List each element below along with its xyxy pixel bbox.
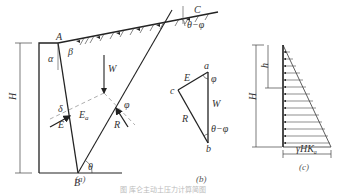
coulomb-earth-pressure-diagram: H α β A B C θ (0, 0, 338, 195)
delta-label: δ (58, 103, 63, 114)
pressure-distribution (283, 45, 331, 147)
height-label: H (7, 92, 18, 101)
vertex-b-label: b (206, 143, 211, 154)
figure-caption: 图 库仑主动土压力计算简图 (120, 185, 206, 194)
alpha-label: α (48, 53, 54, 64)
panel-a-caption: (a) (75, 174, 86, 184)
vertex-c-label: c (170, 85, 175, 96)
phi-label-a: φ (124, 99, 130, 110)
W-label-b: W (212, 98, 222, 109)
theta-label: θ (88, 161, 93, 172)
panel-b: a b c E W R φ θ−φ (b) (170, 60, 229, 184)
ground-markers (76, 18, 190, 43)
slip-plane-BC (78, 10, 172, 173)
panel-a: H α β A B C θ (7, 4, 218, 188)
vector-E (178, 72, 208, 90)
depth-label: h (259, 63, 270, 68)
E-label-b: E (183, 72, 190, 83)
panel-c: H h γHKa (c) (247, 45, 331, 172)
height-label-c: H (247, 92, 258, 101)
phi-label-b: φ (211, 73, 217, 84)
base-value-label: γHKa (296, 143, 317, 155)
theta-minus-phi-label-a: θ−φ (187, 19, 205, 30)
E-label: E (57, 119, 64, 130)
point-C-label: C (194, 4, 201, 15)
Ea-label: Ea (78, 109, 89, 122)
vertex-a-label: a (204, 60, 209, 71)
theta-minus-phi-label-b: θ−φ (211, 123, 229, 134)
point-A-label: A (55, 31, 63, 42)
R-label-b: R (181, 113, 188, 124)
panel-b-caption: (b) (196, 174, 207, 184)
R-label: R (113, 119, 120, 130)
beta-label: β (67, 46, 73, 57)
weight-label: W (108, 63, 118, 74)
panel-c-caption: (c) (299, 162, 309, 172)
